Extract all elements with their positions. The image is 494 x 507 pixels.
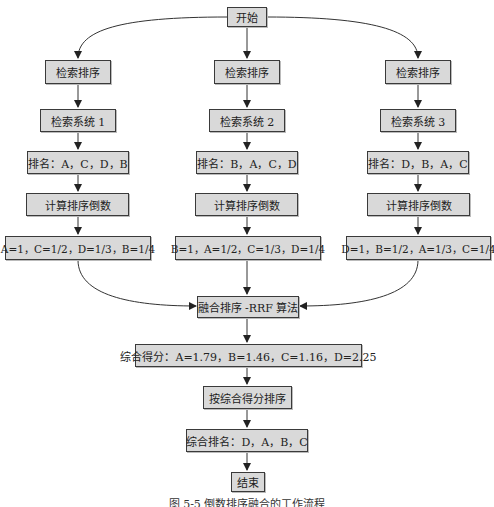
combined-scores-node: 综合得分：A=1.79，B=1.46，C=1.16，D=2.25 [135, 344, 362, 367]
branch-3-system: 检索系统 3 [380, 109, 456, 132]
fusion-rrf-node: 融合排序 -RRF 算法 [197, 296, 299, 318]
branch-1-system: 检索系统 1 [40, 109, 116, 132]
branch-2-reciprocals: B=1，A=1/2，C=1/3，D=1/4 [175, 236, 321, 260]
branch-2-ranking: 排名：B，A，C，D [196, 151, 298, 174]
branch-1-reciprocals: A=1，C=1/2，D=1/3，B=1/4 [5, 236, 151, 260]
branch-2-compute-reciprocal: 计算排序倒数 [195, 193, 298, 216]
final-ranking-node: 综合排名：D，A，B，C [186, 429, 308, 452]
branch-1-ranking: 排名：A，C，D，B [27, 151, 129, 174]
branch-3-retrieve-sort: 检索排序 [385, 60, 451, 84]
branch-3-compute-reciprocal: 计算排序倒数 [367, 193, 470, 216]
branch-3-ranking: 排名：D，B，A，C [367, 151, 469, 174]
start-node: 开始 [227, 7, 267, 27]
branch-1-retrieve-sort: 检索排序 [45, 60, 111, 84]
branch-2-retrieve-sort: 检索排序 [214, 60, 280, 84]
branch-1-compute-reciprocal: 计算排序倒数 [26, 193, 129, 216]
branch-3-reciprocals: D=1，B=1/2，A=1/3，C=1/4 [346, 236, 491, 260]
sort-by-score-node: 按综合得分排序 [203, 386, 292, 409]
end-node: 结束 [231, 472, 265, 492]
figure-caption: 图 5-5 倒数排序融合的工作流程 [0, 497, 494, 507]
branch-2-system: 检索系统 2 [209, 109, 285, 132]
